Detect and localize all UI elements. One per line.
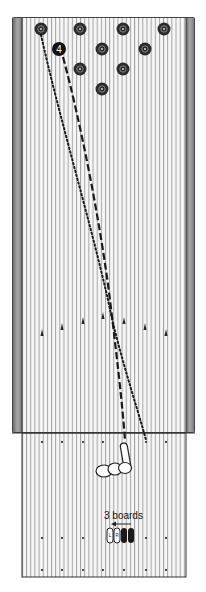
lane-boards	[22, 18, 186, 432]
pin-10	[158, 23, 171, 36]
lane	[12, 17, 195, 433]
pin-5	[96, 43, 109, 56]
pin-9	[117, 23, 130, 36]
pin-2	[74, 63, 87, 76]
left-gutter	[13, 18, 22, 432]
pin-4-label: 4	[56, 44, 62, 55]
bowling-lane-diagram: 4 3 boards L	[0, 0, 206, 592]
shoe-right-outline-icon: R	[114, 528, 120, 543]
pin-4-highlighted: 4	[52, 42, 66, 56]
pin-7	[35, 23, 48, 36]
pin-3	[117, 63, 130, 76]
shoe-left-filled-icon	[121, 528, 127, 543]
pin-1	[96, 83, 109, 96]
footwork-label: 3 boards	[104, 510, 143, 521]
shoe-right-filled-icon	[128, 528, 134, 543]
approach	[12, 433, 195, 577]
pin-6	[139, 43, 152, 56]
pin-8	[74, 23, 87, 36]
right-gutter	[186, 18, 194, 432]
shoe-left-outline-icon: L	[107, 528, 113, 543]
